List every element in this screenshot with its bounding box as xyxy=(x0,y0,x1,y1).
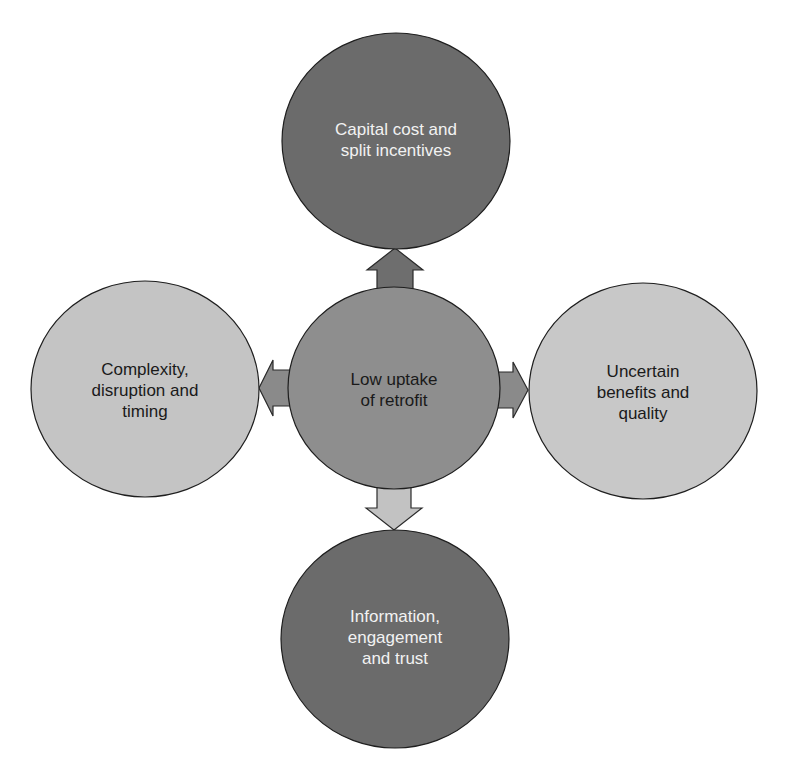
node-top-label: Capital cost and split incentives xyxy=(296,100,496,180)
center-label: Low uptake of retrofit xyxy=(294,350,494,430)
node-right-label: Uncertain benefits and quality xyxy=(543,352,743,432)
arrow-right-icon xyxy=(496,362,528,418)
node-left-label: Complexity, disruption and timing xyxy=(45,350,245,430)
arrow-up-icon xyxy=(367,248,423,292)
arrow-left-icon xyxy=(259,360,292,416)
arrow-down-icon xyxy=(366,487,422,530)
node-bottom-label: Information, engagement and trust xyxy=(295,597,495,677)
